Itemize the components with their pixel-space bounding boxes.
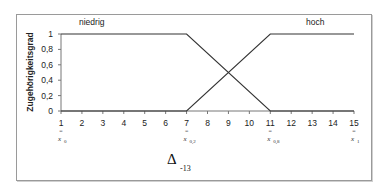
x-tick-label: 3: [100, 118, 105, 128]
equals-mark: =: [59, 128, 63, 134]
x-tick-label: 4: [121, 118, 126, 128]
annotation-x: x: [183, 135, 188, 143]
equals-mark: =: [352, 128, 356, 134]
annotation-subscript: 0: [64, 139, 67, 144]
series-line-hoch: [61, 34, 354, 111]
x-tick-label: 14: [328, 118, 338, 128]
delta-label: Δ -13: [167, 151, 191, 173]
x-tick-label: 2: [80, 118, 85, 128]
x-tick-label: 13: [307, 118, 317, 128]
delta-subscript: -13: [180, 164, 191, 173]
x-tick-label: 1: [59, 118, 64, 128]
y-tick-label: 0,4: [41, 75, 53, 85]
series-label-hoch: hoch: [306, 17, 325, 27]
equals-mark: =: [269, 128, 273, 134]
y-axis-title: Zugehörigkeitsgrad: [25, 32, 35, 111]
y-axis-label: Zugehörigkeitsgrad: [25, 32, 35, 111]
delta-symbol: Δ: [167, 151, 177, 167]
y-tick-label: 1: [48, 29, 53, 39]
x-tick-label: 7: [184, 118, 189, 128]
y-axis: 00,20,40,60,81: [41, 29, 61, 116]
x-tick-label: 9: [226, 118, 231, 128]
x-tick-label: 11: [266, 118, 275, 128]
equals-mark: =: [185, 128, 189, 134]
y-tick-label: 0: [48, 106, 53, 116]
series-label-niedrig: niedrig: [79, 17, 105, 27]
membership-chart: Zugehörigkeitsgrad 00,20,40,60,81 123456…: [0, 0, 389, 193]
annotation-x: x: [266, 135, 271, 143]
x-tick-label: 10: [245, 118, 255, 128]
series-line-niedrig: [61, 34, 354, 111]
x-tick-label: 8: [205, 118, 210, 128]
x-annotations: =x0=x0,2=x0,8=x1: [57, 128, 360, 145]
annotation-x: x: [57, 135, 62, 143]
x-axis: 123456789101112131415: [59, 111, 359, 128]
annotation-subscript: 0,2: [190, 139, 197, 145]
x-tick-label: 15: [349, 118, 359, 128]
annotation-subscript: 0,8: [273, 139, 280, 145]
x-tick-label: 5: [142, 118, 147, 128]
x-tick-label: 6: [163, 118, 168, 128]
annotation-x: x: [350, 135, 355, 143]
y-tick-label: 0,6: [41, 60, 53, 70]
y-tick-label: 0,8: [41, 44, 53, 54]
x-tick-label: 12: [286, 118, 296, 128]
series-lines: [61, 34, 354, 111]
annotation-subscript: 1: [357, 139, 360, 144]
y-tick-label: 0,2: [41, 91, 53, 101]
